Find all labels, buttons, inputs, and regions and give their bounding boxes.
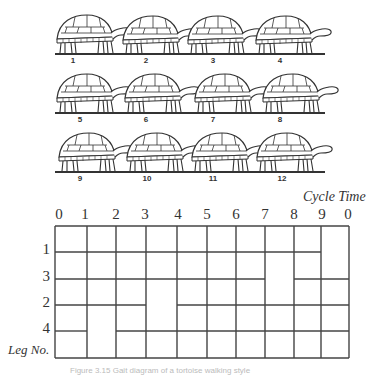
gait-diagram-grid <box>0 0 379 380</box>
figure-caption: Figure 3.15 Gait diagram of a tortoise w… <box>70 366 250 375</box>
